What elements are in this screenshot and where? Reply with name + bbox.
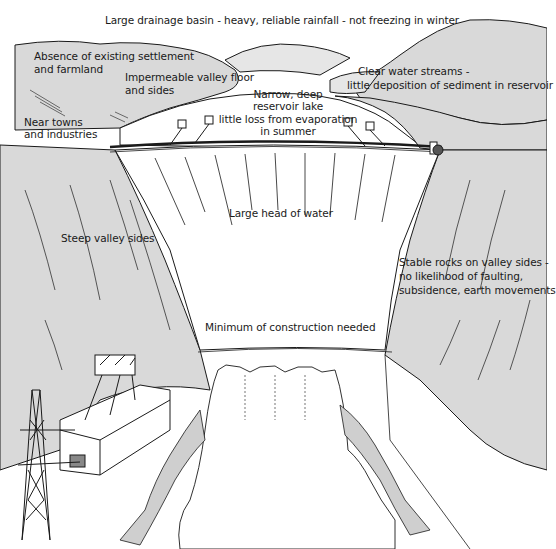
label-settlement-line1: Absence of existing settlement [34,50,194,62]
label-near-towns-line1: Near towns [24,116,83,128]
label-steep-sides: Steep valley sides [61,232,154,244]
label-impermeable-line2: and sides [125,84,174,96]
label-narrow-line1: Narrow, deep [248,88,328,100]
label-narrow-line2: reservoir lake [248,100,328,112]
label-clear-streams-line2: little deposition of sediment in reservo… [347,79,553,91]
label-near-towns-line2: and industries [24,128,97,140]
label-impermeable-line1: Impermeable valley floor [125,71,254,83]
label-construction: Minimum of construction needed [205,321,375,333]
right-dam-anchor [433,145,443,155]
label-drainage-basin: Large drainage basin - heavy, reliable r… [105,14,459,26]
label-stable-rocks-line2: no likelihood of faulting, [399,270,523,282]
label-head-of-water: Large head of water [229,207,333,219]
label-stable-rocks-line3: subsidence, earth movements [399,284,556,296]
label-stable-rocks-line1: Stable rocks on valley sides - [399,256,549,268]
label-settlement-line2: and farmland [34,63,103,75]
spillway-outflow [179,365,395,549]
label-evaporation-line1: little loss from evaporation [218,113,358,125]
label-clear-streams-line1: Clear water streams - [358,65,469,77]
label-evaporation-line2: in summer [218,125,358,137]
